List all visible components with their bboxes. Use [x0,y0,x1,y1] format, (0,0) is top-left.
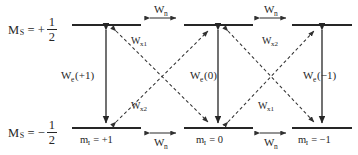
wn-symbol: W [264,3,274,15]
label-wx2-lower-left: Wx2 [131,101,147,111]
label-wn-bottom-right: Wn [264,137,278,148]
we-argument: (+1) [75,69,94,81]
label-wx1-lower-right: Wx1 [258,101,274,111]
label-wx1-upper-left: Wx1 [131,36,147,46]
wx-subscript: x2 [271,40,278,48]
fraction-denominator: 2 [47,134,57,147]
label-mi-zero: mI = 0 [196,135,223,146]
label-wx2-upper-right: Wx2 [262,36,278,46]
fraction-numerator: 1 [47,16,57,29]
we-symbol: W [61,69,71,81]
energy-level-diagram: MS = + 1 2 MS = − 1 2 Wn Wn Wn Wn We(+1)… [0,0,358,155]
fraction-one-half-upper: 1 2 [47,16,57,44]
label-mi-plus1: mI = +1 [80,135,113,146]
label-wn-top-left: Wn [154,4,168,15]
axis-label-ms-minus-half: MS = − 1 2 [8,119,57,147]
axis-label-ms-plus-half: MS = + 1 2 [8,16,57,44]
label-wn-top-right: Wn [264,4,278,15]
mi-symbol: m [196,134,204,145]
wx-subscript: x1 [140,40,147,48]
wn-subscript: n [274,9,278,18]
mi-value: = +1 [93,134,113,145]
wx-subscript: x2 [140,105,147,113]
mi-subscript: I [306,139,308,147]
wn-symbol: W [154,136,164,148]
we-subscript: e [200,75,203,84]
we-symbol: W [303,69,313,81]
we-argument: (−1) [317,69,336,81]
ms-equals-minus: = − [28,127,45,140]
mi-symbol: m [298,134,306,145]
ms-equals-plus: = + [28,24,45,37]
ms-symbol: M [8,24,19,37]
we-subscript: e [313,75,316,84]
wx-subscript: x1 [267,105,274,113]
we-symbol: W [190,69,200,81]
label-wn-bottom-left: Wn [154,137,168,148]
ms-subscript: S [20,29,24,37]
label-we-zero: We(0) [190,70,217,81]
wn-subscript: n [164,142,168,151]
fraction-one-half-lower: 1 2 [47,119,57,147]
wn-subscript: n [274,142,278,151]
ms-symbol: M [8,127,19,140]
we-argument: (0) [204,69,217,81]
label-mi-minus1: mI = −1 [298,135,331,146]
fraction-denominator: 2 [47,31,57,44]
mi-symbol: m [80,134,88,145]
wn-symbol: W [154,3,164,15]
wn-symbol: W [264,136,274,148]
we-subscript: e [71,75,74,84]
mi-value: = 0 [209,134,223,145]
wn-subscript: n [164,9,168,18]
mi-value: = −1 [311,134,331,145]
label-we-plus1: We(+1) [61,70,94,81]
mi-subscript: I [88,139,90,147]
label-we-minus1: We(−1) [303,70,336,81]
ms-subscript: S [20,132,24,140]
mi-subscript: I [204,139,206,147]
fraction-numerator: 1 [47,119,57,132]
